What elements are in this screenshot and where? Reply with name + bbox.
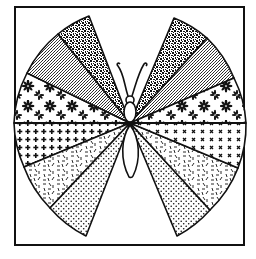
antenna-left — [117, 63, 128, 96]
butterfly-thorax — [124, 102, 136, 122]
butterfly-illustration — [0, 0, 256, 259]
